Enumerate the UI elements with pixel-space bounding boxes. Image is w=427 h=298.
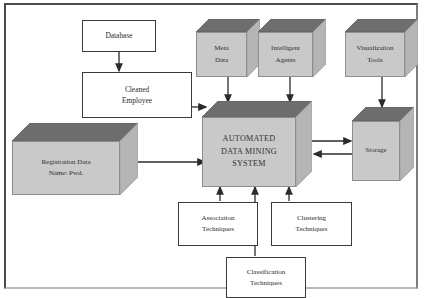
meta-data-cube-front: Meta Data xyxy=(196,32,247,77)
visualization-tools-cube-front: Visualization Tools xyxy=(345,32,405,77)
node-classification-line2: Techniques xyxy=(250,278,282,289)
registration-data-cube-front: Registration Data Name: Pwd. xyxy=(12,141,120,195)
node-automated-data-mining-system[interactable]: AUTOMATED DATA MINING SYSTEM xyxy=(202,101,312,187)
node-cleaned-employee[interactable]: Cleaned Employee xyxy=(82,72,192,118)
node-clustering-line1: Clustering xyxy=(297,213,326,224)
node-association-line1: Association xyxy=(201,213,234,224)
node-classification-line1: Classification xyxy=(247,267,286,278)
node-visualization-tools-line1: Visualization xyxy=(357,43,394,54)
node-system-line1: AUTOMATED xyxy=(223,133,276,146)
node-registration-data-line2: Name: Pwd. xyxy=(49,168,84,179)
node-intelligent-agents[interactable]: Intelligent Agents xyxy=(258,19,326,77)
node-registration-data[interactable]: Registration Data Name: Pwd. xyxy=(12,123,138,195)
node-intelligent-agents-line1: Intelligent xyxy=(271,43,300,54)
intelligent-agents-cube-front: Intelligent Agents xyxy=(258,32,313,77)
node-visualization-tools-line2: Tools xyxy=(367,55,382,66)
node-intelligent-agents-line2: Agents xyxy=(276,55,296,66)
node-clustering-techniques[interactable]: Clustering Techniques xyxy=(271,202,352,246)
node-cleaned-employee-line1: Cleaned xyxy=(125,84,149,95)
node-meta-data[interactable]: Meta Data xyxy=(196,19,260,77)
node-cleaned-employee-line2: Employee xyxy=(122,95,152,106)
node-classification-techniques[interactable]: Classification Techniques xyxy=(226,257,306,298)
node-database-label: Database xyxy=(105,30,132,41)
diagram-frame: Database Cleaned Employee Registration D… xyxy=(4,3,418,289)
node-meta-data-line1: Meta xyxy=(214,43,228,54)
node-association-line2: Techniques xyxy=(202,224,234,235)
node-storage[interactable]: Storage xyxy=(352,107,414,181)
node-system-line2: DATA MINING xyxy=(221,146,277,159)
node-storage-label: Storage xyxy=(365,145,386,156)
node-clustering-line2: Techniques xyxy=(296,224,328,235)
node-association-techniques[interactable]: Association Techniques xyxy=(178,202,258,246)
node-registration-data-line1: Registration Data xyxy=(41,157,90,168)
diagram-canvas: Database Cleaned Employee Registration D… xyxy=(6,5,420,291)
node-system-line3: SYSTEM xyxy=(232,158,266,171)
system-cube-front: AUTOMATED DATA MINING SYSTEM xyxy=(202,117,296,187)
node-visualization-tools[interactable]: Visualization Tools xyxy=(345,19,418,77)
node-meta-data-line2: Data xyxy=(215,55,228,66)
node-database[interactable]: Database xyxy=(82,20,156,52)
storage-cube-front: Storage xyxy=(352,121,400,181)
